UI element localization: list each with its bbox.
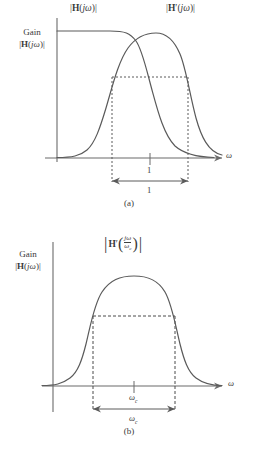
- span-label-a: 1: [147, 185, 151, 195]
- fraction-denominator: ωc: [124, 242, 131, 252]
- y-axis-gain-label-a: Gain |H(jω)|: [8, 26, 56, 50]
- omega-symbol: ω: [126, 234, 131, 242]
- bar-open: |: [104, 234, 107, 254]
- figure-panel-b: Gain |H(jω)| | H ′ ( jω ωc ) | ω ωc ωc (…: [0, 220, 258, 451]
- gain-magnitude-b: |H(jω)|: [4, 260, 52, 272]
- bar-close: |: [139, 234, 142, 254]
- gain-word-b: Gain: [4, 248, 52, 260]
- curve-label-H-prime-a: |H′(jω)|: [166, 3, 195, 13]
- H-symbol: H: [17, 261, 24, 271]
- x-axis-tick-label-a: 1: [147, 165, 151, 175]
- bar-close: |: [193, 3, 195, 13]
- bar-close: |: [95, 3, 97, 13]
- omega-symbol: ω: [85, 3, 92, 13]
- bar-close: |: [39, 261, 41, 271]
- gain-magnitude-a: |H(jω)|: [8, 38, 56, 50]
- figure-panel-a: Gain |H(jω)| |H(jω)| |H′(jω)| ω 1 1 (a): [0, 0, 258, 225]
- paren-close: ): [132, 235, 137, 253]
- span-label-b: ωc: [129, 413, 137, 425]
- x-axis-tick-label-b: ωc: [129, 392, 137, 404]
- curve-bandpass-a: [57, 33, 222, 158]
- curve-label-H-a: |H(jω)|: [70, 3, 97, 13]
- bar-close: |: [43, 39, 45, 49]
- subscript-c: c: [135, 419, 137, 425]
- curve-bandpass-b: [42, 276, 222, 386]
- subscript-c: c: [129, 247, 131, 252]
- curve-label-H-prime-scaled-b: | H ′ ( jω ωc ) |: [104, 234, 142, 254]
- H-symbol: H: [21, 39, 28, 49]
- subscript-c: c: [135, 398, 137, 404]
- x-axis-omega-label-b: ω: [228, 378, 234, 388]
- omega-symbol: ω: [183, 3, 190, 13]
- gain-word-a: Gain: [8, 26, 56, 38]
- fraction: jω ωc: [123, 235, 132, 252]
- H-symbol: H: [108, 239, 115, 249]
- x-axis-omega-label-a: ω: [226, 150, 232, 160]
- fraction-numerator: jω: [124, 235, 131, 242]
- caption-a: (a): [0, 198, 258, 208]
- y-axis-gain-label-b: Gain |H(jω)|: [4, 248, 52, 272]
- caption-b: (b): [0, 426, 258, 436]
